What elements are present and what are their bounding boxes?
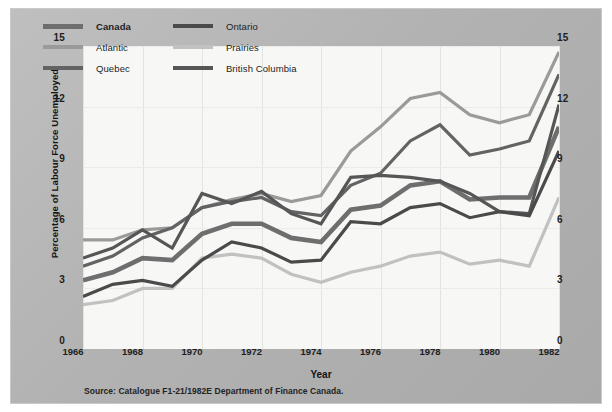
y-tick-label: 3 [41,274,65,285]
legend-swatch-british-columbia [173,66,213,70]
legend-item-british-columbia[interactable]: British Columbia [173,62,297,74]
legend-swatch-canada [43,24,83,29]
series-line-atlantic [83,52,559,240]
y-tick-label: 3 [557,274,581,285]
x-tick-label: 1974 [300,346,321,357]
legend-label-ontario: Ontario [226,21,258,32]
legend-column-right: Ontario Prairies British Columbia [173,20,297,74]
legend-label-prairies: Prairies [226,42,259,53]
y-axis-title: Percentage of Labour Force Unemployed [49,54,60,274]
x-tick-label: 1980 [479,346,500,357]
x-tick-label: 1976 [360,346,381,357]
source-note: Source: Catalogue F1-21/1982E Department… [84,386,343,396]
chart-plate: 15129630 15129630 1966196819701972197419… [10,8,602,404]
plot-area [83,46,559,349]
x-tick-label: 1970 [181,346,202,357]
legend-label-atlantic: Atlantic [96,42,128,53]
y-tick-label: 6 [557,214,581,225]
y-tick-label: 12 [557,93,581,104]
legend-column-left: Canada Atlantic Quebec [43,20,131,74]
legend-item-ontario[interactable]: Ontario [173,20,297,32]
legend-swatch-ontario [173,24,213,28]
legend-label-british-columbia: British Columbia [226,63,297,74]
legend-label-canada: Canada [96,21,131,32]
chart-legend: Canada Atlantic Quebec Ontario [43,20,297,74]
legend-item-quebec[interactable]: Quebec [43,62,131,74]
legend-item-canada[interactable]: Canada [43,20,131,32]
x-tick-label: 1982 [538,346,559,357]
y-tick-label: 15 [557,32,581,43]
x-tick-label: 1968 [122,346,143,357]
gridline-vertical [559,46,560,349]
series-layer [83,46,559,349]
x-tick-label: 1966 [62,346,83,357]
legend-item-prairies[interactable]: Prairies [173,41,297,53]
legend-swatch-atlantic [43,45,83,49]
x-tick-label: 1978 [419,346,440,357]
legend-swatch-quebec [43,66,83,70]
line-series-svg [83,46,559,349]
y-tick-label: 9 [557,153,581,164]
chart-page: 15129630 15129630 1966196819701972197419… [0,0,612,412]
y-tick-label: 0 [557,335,581,346]
x-tick-label: 1972 [241,346,262,357]
x-axis-title: Year [83,369,559,380]
legend-label-quebec: Quebec [96,63,130,74]
y-tick-label: 0 [41,335,65,346]
legend-item-atlantic[interactable]: Atlantic [43,41,131,53]
legend-swatch-prairies [173,45,213,49]
